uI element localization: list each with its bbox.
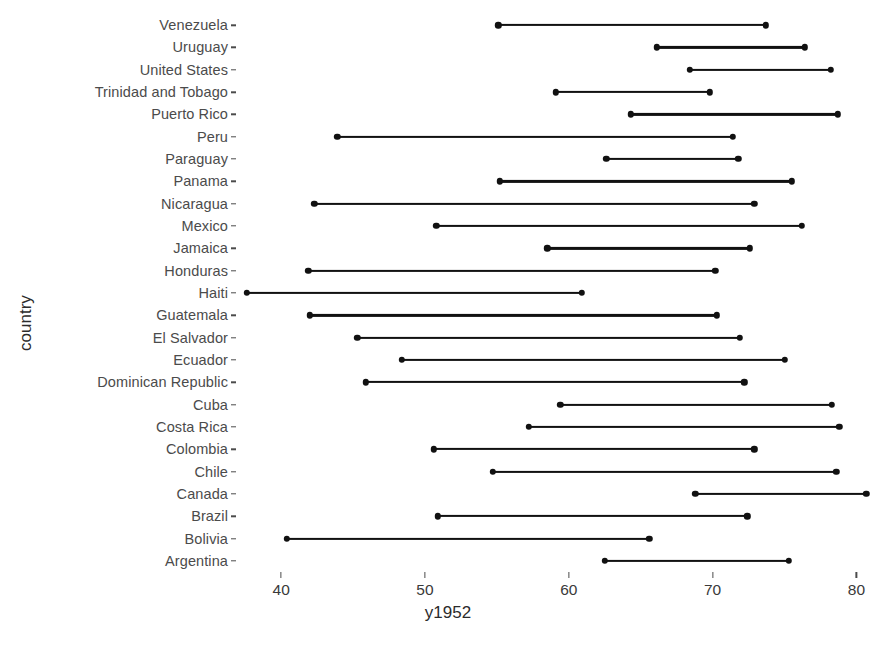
dumbbell-connector <box>560 404 832 406</box>
data-point-end <box>827 67 833 73</box>
dumbbell-connector <box>402 359 785 361</box>
x-axis-tick-label: 80 <box>848 581 865 599</box>
y-axis-tick-mark <box>231 560 236 561</box>
data-point-start <box>311 201 317 207</box>
y-axis-tick-label: Trinidad and Tobago <box>95 84 228 100</box>
data-point-end <box>786 558 792 564</box>
data-point-end <box>829 401 835 407</box>
dumbbell-connector <box>529 426 840 428</box>
y-axis-tick-label: Honduras <box>164 263 228 279</box>
data-point-start <box>653 44 659 50</box>
x-axis-tick-label: 60 <box>560 581 577 599</box>
data-point-end <box>801 44 807 50</box>
data-point-start <box>284 535 290 541</box>
y-axis-tick-label: Puerto Rico <box>151 106 228 122</box>
y-axis-tick-label: El Salvador <box>153 330 228 346</box>
x-axis-tick-label: 50 <box>416 581 433 599</box>
dumbbell-connector <box>690 69 831 71</box>
x-axis-tick-mark <box>856 572 857 578</box>
y-axis-title: country <box>16 295 36 351</box>
y-axis-tick-label: Haiti <box>198 285 228 301</box>
data-point-end <box>735 156 741 162</box>
x-axis-tick: 50 <box>416 572 433 599</box>
chart-row: Brazil <box>238 505 878 527</box>
data-point-end <box>747 245 753 251</box>
data-point-start <box>489 468 495 474</box>
chart-row: Argentina <box>238 550 878 572</box>
y-axis-tick-label: Chile <box>194 464 228 480</box>
dumbbell-connector <box>695 493 866 495</box>
data-point-start <box>399 357 405 363</box>
y-axis-tick-mark <box>231 404 236 405</box>
data-point-end <box>579 290 585 296</box>
data-point-end <box>751 446 757 452</box>
y-axis-tick-label: Uruguay <box>172 39 228 55</box>
chart-row: Nicaragua <box>238 193 878 215</box>
dumbbell-connector <box>314 203 754 205</box>
dumbbell-connector <box>631 113 838 115</box>
x-axis-tick-label: 70 <box>704 581 721 599</box>
data-point-start <box>525 424 531 430</box>
dumbbell-connector <box>547 247 750 249</box>
data-point-end <box>741 379 747 385</box>
data-point-end <box>863 491 869 497</box>
y-axis-tick-label: Venezuela <box>159 17 228 33</box>
data-point-end <box>737 334 743 340</box>
dumbbell-connector <box>366 381 744 383</box>
y-axis-tick-label: Nicaragua <box>161 196 228 212</box>
y-axis-tick-label: Colombia <box>166 441 228 457</box>
x-axis-tick: 40 <box>273 572 290 599</box>
data-point-end <box>789 178 795 184</box>
chart-row: Ecuador <box>238 349 878 371</box>
data-point-start <box>602 558 608 564</box>
chart-row: Guatemala <box>238 304 878 326</box>
data-point-end <box>799 223 805 229</box>
data-point-start <box>603 156 609 162</box>
y-axis-tick-mark <box>231 158 236 159</box>
chart-row: Costa Rica <box>238 416 878 438</box>
chart-row: Haiti <box>238 282 878 304</box>
chart-row: El Salvador <box>238 327 878 349</box>
y-axis-tick-label: Argentina <box>165 553 228 569</box>
data-point-start <box>692 491 698 497</box>
chart-row: Cuba <box>238 394 878 416</box>
data-point-end <box>712 267 718 273</box>
y-axis-tick-mark <box>231 315 236 316</box>
chart-row: Dominican Republic <box>238 371 878 393</box>
y-axis-tick-label: Paraguay <box>165 151 228 167</box>
y-axis-tick-mark <box>231 136 236 137</box>
chart-row: Panama <box>238 170 878 192</box>
y-axis-tick-mark <box>231 382 236 383</box>
y-axis-tick-mark <box>231 337 236 338</box>
y-axis-tick-mark <box>231 91 236 92</box>
chart-row: Paraguay <box>238 148 878 170</box>
chart-row: Peru <box>238 126 878 148</box>
chart-row: Venezuela <box>238 14 878 36</box>
data-point-start <box>334 134 340 140</box>
data-point-start <box>686 67 692 73</box>
data-point-start <box>243 290 249 296</box>
data-point-end <box>836 424 842 430</box>
y-axis-tick-mark <box>231 114 236 115</box>
data-point-end <box>833 468 839 474</box>
x-axis-tick-label: 40 <box>273 581 290 599</box>
y-axis-tick-label: Canada <box>177 486 228 502</box>
chart-row: Puerto Rico <box>238 103 878 125</box>
data-point-start <box>433 223 439 229</box>
x-axis-tick-mark <box>712 572 713 578</box>
dumbbell-chart: country VenezuelaUruguayUnited StatesTri… <box>0 0 896 646</box>
data-point-start <box>307 312 313 318</box>
dumbbell-connector <box>287 537 649 539</box>
dumbbell-connector <box>434 448 755 450</box>
y-axis-tick-label: Dominican Republic <box>97 374 228 390</box>
dumbbell-connector <box>605 560 789 562</box>
data-point-start <box>553 89 559 95</box>
data-point-start <box>354 334 360 340</box>
data-point-start <box>430 446 436 452</box>
dumbbell-connector <box>556 91 710 93</box>
y-axis-tick-mark <box>231 493 236 494</box>
x-axis-tick: 80 <box>848 572 865 599</box>
data-point-start <box>363 379 369 385</box>
data-point-end <box>730 134 736 140</box>
data-point-start <box>627 111 633 117</box>
